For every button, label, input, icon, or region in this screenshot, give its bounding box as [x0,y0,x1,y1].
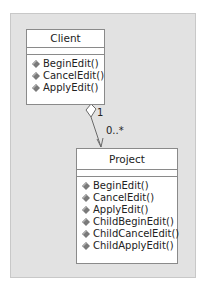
operation[interactable]: ApplyEdit() [31,82,104,94]
method-icon [31,71,41,81]
method-icon [81,229,91,239]
operation[interactable]: CancelEdit() [81,192,177,204]
operation[interactable]: BeginEdit() [31,58,104,70]
operation[interactable]: ChildCancelEdit() [81,228,177,240]
operation[interactable]: BeginEdit() [81,180,177,192]
method-icon [81,205,91,215]
operation[interactable]: ChildApplyEdit() [81,240,177,252]
method-icon [81,181,91,191]
multiplicity-client: 1 [97,107,103,118]
operation[interactable]: ApplyEdit() [81,204,177,216]
operation[interactable]: ChildBeginEdit() [81,216,177,228]
operation[interactable]: CancelEdit() [31,70,104,82]
class-project-operations: BeginEdit() CancelEdit() ApplyEdit() Chi… [77,177,177,252]
method-icon [31,83,41,93]
class-project[interactable]: Project BeginEdit() CancelEdit() ApplyEd… [76,148,178,264]
method-icon [81,217,91,227]
class-client-operations: BeginEdit() CancelEdit() ApplyEdit() [27,55,104,94]
class-client-name: Client [27,30,104,48]
class-client-attributes [27,48,104,55]
method-icon [81,193,91,203]
method-icon [31,59,41,69]
multiplicity-project: 0..* [106,125,124,136]
method-icon [81,241,91,251]
aggregation-diamond-icon [86,104,96,117]
class-project-attributes [77,170,177,177]
class-project-name: Project [77,149,177,170]
class-client[interactable]: Client BeginEdit() CancelEdit() ApplyEdi… [26,29,105,105]
